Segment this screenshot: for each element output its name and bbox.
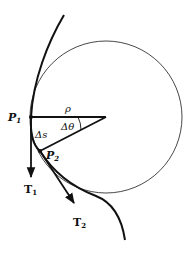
curvature-diagram: P1 P2 ρ Δθ Δs T1 T2 [0,0,190,253]
label-p1: P1 [7,111,21,125]
label-delta-s: Δs [34,129,47,140]
label-rho: ρ [64,103,71,114]
angle-arc [78,117,81,130]
label-delta-theta: Δθ [60,121,74,132]
label-t1: T1 [24,183,37,197]
label-p2: P2 [45,149,59,163]
curve [31,15,125,240]
label-t2: T2 [73,216,86,230]
